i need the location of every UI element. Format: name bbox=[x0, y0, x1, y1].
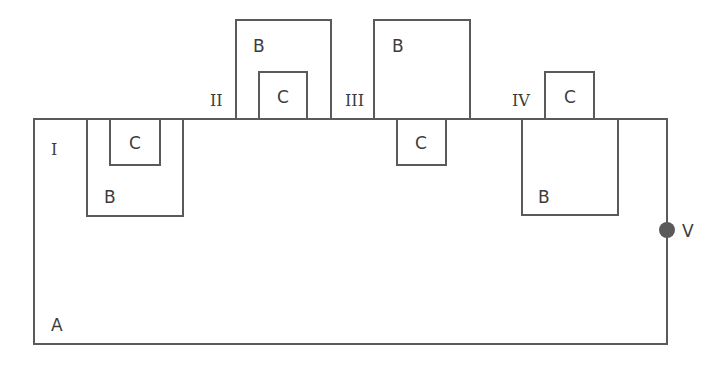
case-ii-label: II bbox=[210, 91, 223, 110]
case-i-b-label: B bbox=[104, 187, 116, 207]
case-iii-b-label: B bbox=[392, 36, 404, 56]
case-iii-box-b bbox=[374, 20, 470, 119]
case-iv-c-label: C bbox=[564, 87, 576, 107]
case-iii-label: III bbox=[345, 91, 364, 110]
case-ii-b-label: B bbox=[253, 36, 265, 56]
diagram-canvas: I B C II B C III B C IV B C A V bbox=[0, 0, 721, 366]
case-i-label: I bbox=[51, 140, 57, 159]
region-a-label: A bbox=[51, 315, 63, 335]
case-iii-c-label: C bbox=[415, 133, 427, 153]
case-iv-b-label: B bbox=[538, 187, 550, 207]
case-iv-label: IV bbox=[512, 91, 530, 110]
case-i-c-label: C bbox=[129, 133, 141, 153]
terminal-v-label: V bbox=[682, 221, 694, 241]
terminal-dot-icon bbox=[659, 222, 675, 238]
case-ii-c-label: C bbox=[277, 87, 289, 107]
case-iv-box-b bbox=[522, 119, 618, 215]
